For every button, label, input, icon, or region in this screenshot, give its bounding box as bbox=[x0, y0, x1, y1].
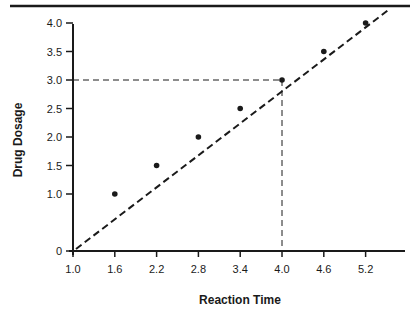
y-tick-label: 2.0 bbox=[47, 131, 62, 143]
trend-line bbox=[76, 9, 390, 249]
x-tick-label: 2.8 bbox=[191, 263, 206, 275]
x-tick-label: 5.2 bbox=[358, 263, 373, 275]
data-point bbox=[237, 106, 243, 112]
data-point bbox=[112, 191, 118, 197]
x-tick-label: 3.4 bbox=[233, 263, 248, 275]
y-tick-label: 1.5 bbox=[47, 160, 62, 172]
y-tick-label: 1.0 bbox=[47, 188, 62, 200]
x-tick-label: 2.2 bbox=[149, 263, 164, 275]
data-point bbox=[279, 77, 285, 83]
data-point bbox=[363, 20, 369, 26]
x-tick-label: 4.6 bbox=[316, 263, 331, 275]
y-tick-label: 3.0 bbox=[47, 74, 62, 86]
x-tick-label: 1.0 bbox=[65, 263, 80, 275]
plot-area: 1.01.62.22.83.44.04.65.201.01.52.02.53.0… bbox=[47, 9, 405, 275]
data-point bbox=[154, 163, 160, 169]
x-tick-label: 4.0 bbox=[274, 263, 289, 275]
y-tick-label: 2.5 bbox=[47, 103, 62, 115]
y-tick-label: 4.0 bbox=[47, 17, 62, 29]
x-tick-label: 1.6 bbox=[107, 263, 122, 275]
chart: 1.01.62.22.83.44.04.65.201.01.52.02.53.0… bbox=[0, 0, 415, 317]
data-point bbox=[321, 49, 327, 55]
y-tick-label: 3.5 bbox=[47, 46, 62, 58]
y-tick-label: 0 bbox=[56, 245, 62, 257]
data-point bbox=[196, 134, 202, 140]
y-axis-title: Drug Dosage bbox=[11, 102, 25, 177]
x-axis-title: Reaction Time bbox=[199, 293, 281, 307]
